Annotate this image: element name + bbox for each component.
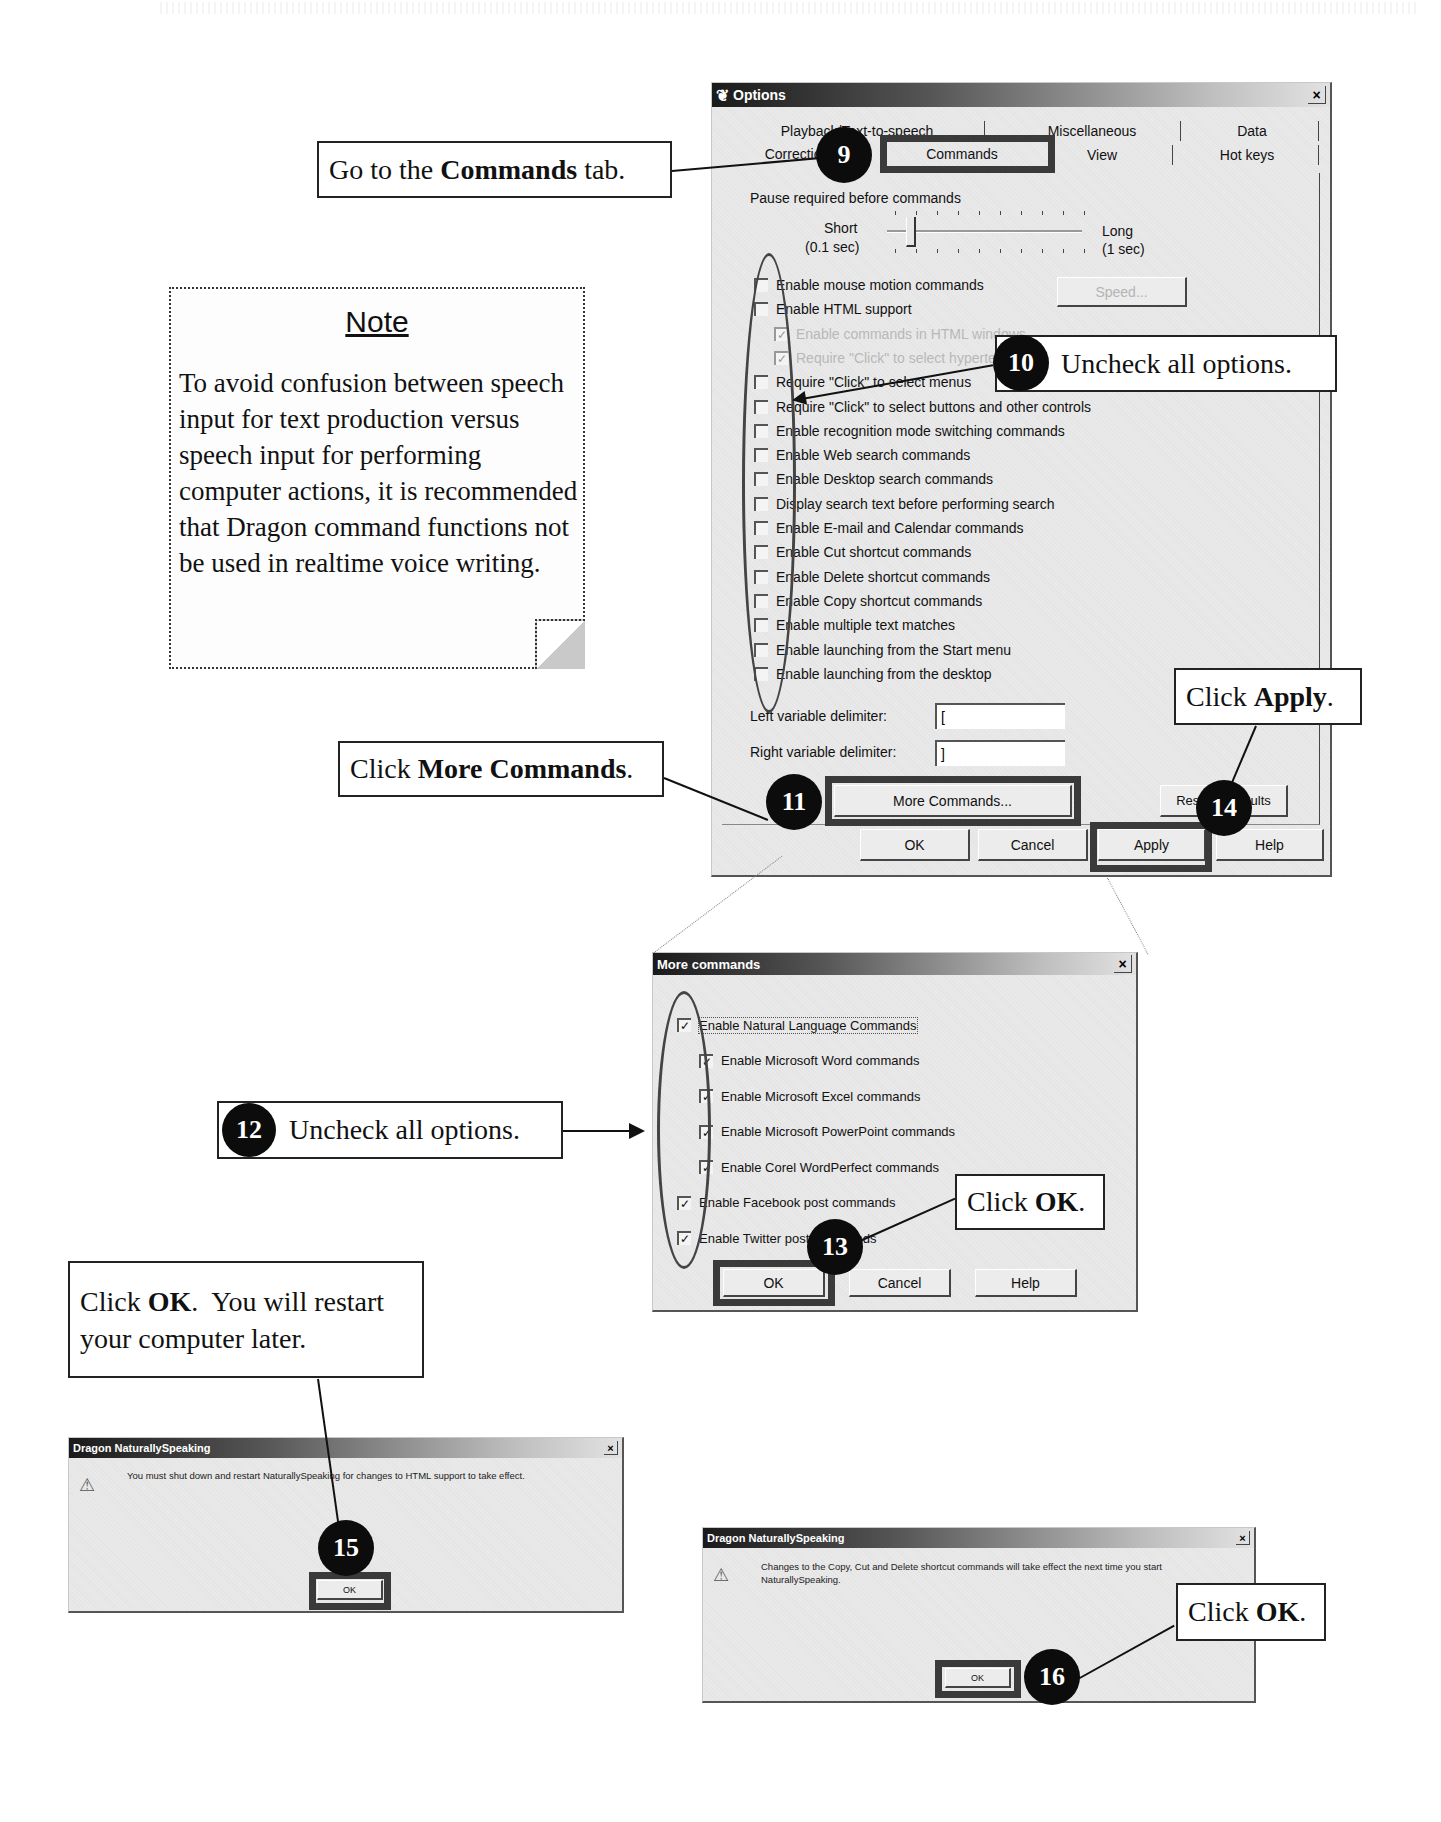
more-commands-titlebar: More commands × xyxy=(653,953,1136,975)
option-label: Enable multiple text matches xyxy=(776,617,955,633)
badge-step15: 15 xyxy=(318,1520,374,1576)
options-dialog: ❦ Options × Playback/Text-to-speech Misc… xyxy=(711,82,1332,877)
ok-button[interactable]: OK xyxy=(860,829,970,861)
option-checkbox-row[interactable]: Enable recognition mode switching comman… xyxy=(754,421,1065,441)
slider-ticks-top xyxy=(895,211,1085,215)
more-option-checkbox-row[interactable]: ✓Enable Corel WordPerfect commands xyxy=(699,1157,939,1177)
option-label: Require "Click" to select menus xyxy=(776,374,971,390)
close-icon[interactable]: × xyxy=(604,1441,618,1455)
options-checkbox-oval xyxy=(742,253,796,713)
option-checkbox-row[interactable]: ✓Enable commands in HTML windows xyxy=(774,324,1026,344)
more-option-checkbox-row[interactable]: ✓Enable Microsoft PowerPoint commands xyxy=(699,1122,955,1142)
tab-divider xyxy=(1318,145,1319,165)
restart-titlebar: Dragon NaturallySpeaking × xyxy=(69,1438,622,1458)
tab-divider xyxy=(1180,121,1181,141)
option-label: Require "Click" to select buttons and ot… xyxy=(776,399,1091,415)
badge-step13: 13 xyxy=(807,1219,863,1275)
more-cancel-button[interactable]: Cancel xyxy=(849,1269,951,1297)
option-label: Enable Desktop search commands xyxy=(776,471,993,487)
shortcut-title: Dragon NaturallySpeaking xyxy=(707,1532,845,1544)
pause-label: Pause required before commands xyxy=(750,190,961,206)
option-label: Enable E-mail and Calendar commands xyxy=(776,520,1023,536)
options-title: Options xyxy=(733,87,786,103)
slider-max-label: Long xyxy=(1102,223,1133,239)
commands-tab-highlight xyxy=(880,135,1055,173)
option-label: Enable Corel WordPerfect commands xyxy=(721,1160,939,1175)
more-commands-dialog: More commands × ✓Enable Natural Language… xyxy=(652,952,1138,1312)
option-label: Enable Web search commands xyxy=(776,447,970,463)
pause-slider[interactable] xyxy=(887,230,1082,233)
close-icon[interactable]: × xyxy=(1236,1531,1250,1545)
callout-step11: Click More Commands. xyxy=(338,741,664,797)
more-option-checkbox-row[interactable]: ✓Enable Microsoft Excel commands xyxy=(699,1086,920,1106)
more-option-checkbox-row[interactable]: ✓Enable Natural Language Commands xyxy=(677,1015,917,1035)
more-commands-highlight xyxy=(825,776,1081,826)
option-label: Display search text before performing se… xyxy=(776,496,1055,512)
badge-step16: 16 xyxy=(1024,1649,1080,1705)
note-box: Note To avoid confusion between speech i… xyxy=(169,287,585,669)
callout-step15: Click OK. You will restart your computer… xyxy=(68,1261,424,1378)
option-label: Enable launching from the Start menu xyxy=(776,642,1011,658)
warning-icon: ⚠ xyxy=(79,1474,95,1496)
slider-min-label: Short xyxy=(824,220,857,236)
tab-data[interactable]: Data xyxy=(1192,123,1312,139)
restart-message: You must shut down and restart Naturally… xyxy=(127,1470,525,1481)
more-option-checkbox-row[interactable]: ✓Enable Facebook post commands xyxy=(677,1193,896,1213)
option-label: Enable Cut shortcut commands xyxy=(776,544,971,560)
left-delimiter-input[interactable]: [ xyxy=(935,703,1065,729)
option-label: Enable Natural Language Commands xyxy=(699,1018,917,1033)
option-checkbox-row[interactable]: Enable launching from the desktop xyxy=(754,664,992,684)
close-icon[interactable]: × xyxy=(1308,86,1326,104)
option-label: Enable launching from the desktop xyxy=(776,666,992,682)
option-checkbox-row[interactable]: Enable mouse motion commands xyxy=(754,275,984,295)
arrowhead-step10 xyxy=(791,391,807,407)
more-commands-checkbox-oval xyxy=(657,991,711,1269)
zoom-line-right xyxy=(1107,878,1148,954)
right-delimiter-label: Right variable delimiter: xyxy=(750,744,896,760)
callout-step16: Click OK. xyxy=(1176,1583,1326,1641)
callout-step9: Go to the Commands tab. xyxy=(317,141,672,198)
right-delimiter-input[interactable]: ] xyxy=(935,740,1065,766)
badge-step14: 14 xyxy=(1196,780,1252,836)
slider-ticks-bottom xyxy=(895,249,1085,253)
callout-step13: Click OK. xyxy=(955,1174,1105,1230)
shortcut-ok-highlight xyxy=(935,1660,1021,1698)
leader-step12 xyxy=(563,1130,631,1132)
slider-thumb[interactable] xyxy=(906,217,916,247)
more-help-button[interactable]: Help xyxy=(975,1269,1077,1297)
speed-button[interactable]: Speed... xyxy=(1057,277,1187,307)
dragon-app-icon: ❦ xyxy=(716,86,729,105)
option-label: Enable Delete shortcut commands xyxy=(776,569,990,585)
arrowhead-step12 xyxy=(629,1123,645,1139)
warning-icon: ⚠ xyxy=(713,1564,729,1586)
badge-step10: 10 xyxy=(993,335,1049,391)
slider-min-sub: (0.1 sec) xyxy=(805,239,859,255)
restart-ok-highlight xyxy=(309,1572,391,1610)
slider-max-sub: (1 sec) xyxy=(1102,241,1145,257)
option-label: Enable commands in HTML windows xyxy=(796,326,1026,342)
badge-step12: 12 xyxy=(222,1103,276,1157)
note-title: Note xyxy=(171,305,583,339)
cancel-button[interactable]: Cancel xyxy=(978,829,1088,861)
option-label: Enable Microsoft Excel commands xyxy=(721,1089,920,1104)
tab-view[interactable]: View xyxy=(1052,147,1152,163)
page-curl-decoration xyxy=(535,619,585,669)
option-label: Enable mouse motion commands xyxy=(776,277,984,293)
badge-step11: 11 xyxy=(766,774,822,830)
note-body: To avoid confusion between speech input … xyxy=(179,365,579,581)
options-titlebar: ❦ Options × xyxy=(712,83,1330,107)
close-icon[interactable]: × xyxy=(1114,955,1132,973)
shortcut-titlebar: Dragon NaturallySpeaking × xyxy=(703,1528,1254,1548)
more-option-checkbox-row[interactable]: ✓Enable Microsoft Word commands xyxy=(699,1051,919,1071)
scan-artifact xyxy=(160,2,1420,14)
option-label: Enable HTML support xyxy=(776,301,912,317)
tab-divider xyxy=(1172,145,1173,165)
option-label: Enable Facebook post commands xyxy=(699,1195,896,1210)
tab-hotkeys[interactable]: Hot keys xyxy=(1182,147,1312,163)
badge-step9: 9 xyxy=(816,127,872,183)
option-label: Enable Microsoft PowerPoint commands xyxy=(721,1124,955,1139)
option-checkbox-row[interactable]: Enable launching from the Start menu xyxy=(754,640,1011,660)
tab-divider xyxy=(1318,121,1319,141)
option-label: Enable Copy shortcut commands xyxy=(776,593,982,609)
option-checkbox-row[interactable]: Display search text before performing se… xyxy=(754,494,1055,514)
